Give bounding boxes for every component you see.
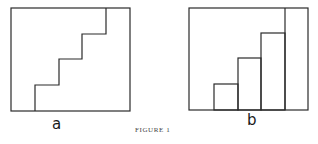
- figure-caption: FIGURE 1: [135, 126, 170, 134]
- panel-b-bar: [238, 58, 261, 110]
- panel-a-staircase: [35, 8, 106, 111]
- panel-a-label: a: [52, 117, 61, 132]
- panel-b-bar: [261, 33, 285, 110]
- figure-drawing: [0, 0, 318, 144]
- panel-b-drawing: [189, 8, 308, 110]
- panel-b-label: b: [247, 113, 257, 128]
- figure-1: a b FIGURE 1: [0, 0, 318, 144]
- panel-b-bars: [214, 33, 285, 110]
- panel-a-drawing: [11, 8, 130, 111]
- panel-b-frame: [189, 8, 308, 110]
- panel-b-bar: [214, 84, 238, 110]
